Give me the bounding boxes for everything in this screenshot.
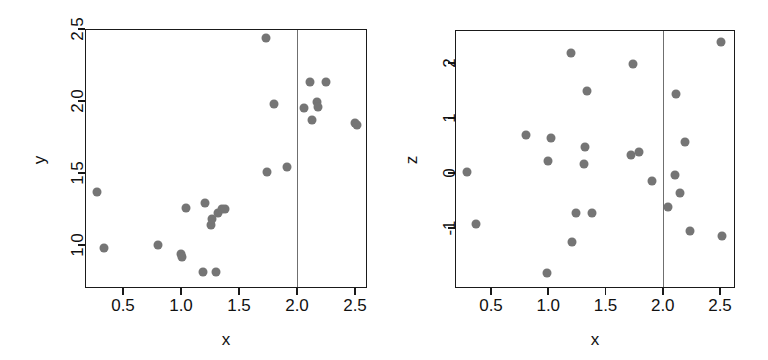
- x-tick-mark: [547, 288, 549, 295]
- x-tick-mark: [490, 288, 492, 295]
- data-point: [672, 89, 681, 98]
- y-tick-label: 0: [430, 163, 470, 183]
- x-tick-mark: [354, 288, 356, 295]
- y-tick-label-text: 2.5: [68, 9, 88, 49]
- data-point: [262, 167, 271, 176]
- data-point: [221, 205, 230, 214]
- data-point: [153, 241, 162, 250]
- y-tick-label-text: 0: [440, 153, 460, 193]
- data-point: [580, 143, 589, 152]
- x-tick-label: 1.5: [227, 296, 251, 316]
- data-point: [543, 269, 552, 278]
- data-point: [299, 104, 308, 113]
- y-tick-label-text: 2: [440, 43, 460, 83]
- y-axis-label: z: [392, 150, 432, 170]
- data-point: [93, 187, 102, 196]
- y-tick-label: 2: [430, 53, 470, 73]
- x-tick-label: 2.5: [708, 296, 732, 316]
- data-point: [567, 49, 576, 58]
- data-point: [544, 157, 553, 166]
- x-tick-label: 2.5: [343, 296, 367, 316]
- data-point: [718, 231, 727, 240]
- x-tick-mark: [296, 288, 298, 295]
- data-point: [717, 38, 726, 47]
- data-point: [648, 176, 657, 185]
- y-tick-label: 1: [430, 108, 470, 128]
- data-point: [100, 243, 109, 252]
- y-tick-label: 1.5: [58, 163, 98, 183]
- data-point: [211, 268, 220, 277]
- y-tick-label: 1.0: [58, 235, 98, 255]
- data-point: [571, 208, 580, 217]
- data-point: [680, 137, 689, 146]
- x-tick-label: 1.0: [169, 296, 193, 316]
- plot-frame: [85, 29, 367, 288]
- x-tick-label: 2.0: [651, 296, 675, 316]
- y-tick-label-text: 1.0: [68, 225, 88, 265]
- data-point: [322, 78, 331, 87]
- y-tick-label: 2.5: [58, 19, 98, 39]
- data-point: [671, 170, 680, 179]
- x-tick-mark: [180, 288, 182, 295]
- data-point: [568, 237, 577, 246]
- x-tick-mark: [662, 288, 664, 295]
- data-point: [628, 59, 637, 68]
- y-tick-label-text: 1.5: [68, 153, 88, 193]
- y-tick-label-text: 1: [440, 98, 460, 138]
- data-point: [308, 115, 317, 124]
- data-point: [313, 102, 322, 111]
- data-point: [201, 199, 210, 208]
- data-point: [583, 86, 592, 95]
- data-point: [686, 226, 695, 235]
- data-point: [546, 134, 555, 143]
- data-point: [587, 209, 596, 218]
- y-tick-label-text: -1: [440, 208, 460, 248]
- data-point: [199, 268, 208, 277]
- y-axis-label: y: [20, 150, 60, 170]
- data-point: [269, 99, 278, 108]
- x-tick-label: 1.5: [594, 296, 618, 316]
- x-tick-label: 2.0: [285, 296, 309, 316]
- figure-canvas: 0.51.01.52.02.51.01.52.02.5xy 0.51.01.52…: [0, 0, 768, 360]
- x-tick-label: 1.0: [536, 296, 560, 316]
- x-tick-label: 0.5: [479, 296, 503, 316]
- y-tick-label-text: 2.0: [68, 81, 88, 121]
- y-axis-label-text: z: [402, 140, 422, 180]
- y-tick-label: 2.0: [58, 91, 98, 111]
- data-point: [522, 130, 531, 139]
- x-tick-mark: [238, 288, 240, 295]
- x-axis-label: x: [222, 330, 231, 350]
- x-tick-label: 0.5: [111, 296, 135, 316]
- data-point: [282, 163, 291, 172]
- data-point: [634, 148, 643, 157]
- data-point: [664, 203, 673, 212]
- y-axis-label-text: y: [30, 140, 50, 180]
- data-point: [579, 159, 588, 168]
- data-point: [353, 121, 362, 130]
- x-axis-label: x: [591, 330, 600, 350]
- x-tick-mark: [719, 288, 721, 295]
- x-tick-mark: [605, 288, 607, 295]
- x-tick-mark: [122, 288, 124, 295]
- data-point: [675, 189, 684, 198]
- data-point: [472, 219, 481, 228]
- data-point: [305, 78, 314, 87]
- data-point: [178, 252, 187, 261]
- vertical-reference-line: [297, 30, 298, 287]
- y-tick-label: -1: [430, 218, 470, 238]
- data-point: [181, 203, 190, 212]
- data-point: [261, 33, 270, 42]
- vertical-reference-line: [663, 31, 664, 287]
- plot-frame: [455, 30, 735, 288]
